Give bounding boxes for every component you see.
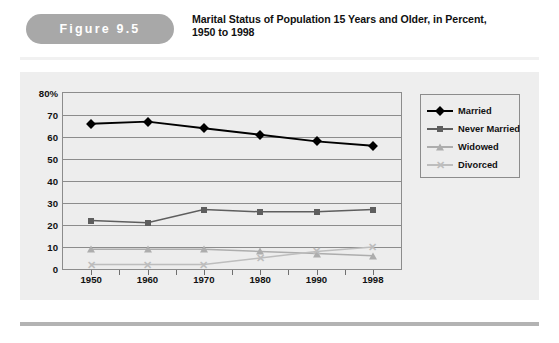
legend-label: Married bbox=[458, 106, 492, 116]
legend-marker-x-icon: ✕ bbox=[436, 161, 445, 170]
data-point: ✕ bbox=[143, 260, 152, 269]
figure-title-line-2: 1950 to 1998 bbox=[192, 26, 522, 39]
legend-label: Widowed bbox=[458, 142, 499, 152]
data-point bbox=[87, 246, 95, 253]
x-axis-tick-label: 1950 bbox=[80, 274, 101, 285]
header-divider bbox=[20, 57, 539, 60]
series-lines bbox=[63, 93, 401, 269]
legend-item[interactable]: ✕Divorced bbox=[427, 156, 519, 174]
y-axis-tick-label: 70 bbox=[24, 110, 58, 121]
y-axis-tick-label: 20 bbox=[24, 220, 58, 231]
y-axis-tick-label: 60 bbox=[24, 132, 58, 143]
chart-panel: 01020304050607080% ✕✕✕✕✕✕ 19501960197019… bbox=[20, 72, 539, 300]
data-point bbox=[370, 207, 376, 213]
figure-number-badge: Figure 9.5 bbox=[26, 14, 174, 44]
data-point bbox=[145, 220, 151, 226]
legend-item[interactable]: Married bbox=[427, 102, 519, 120]
data-point bbox=[369, 252, 377, 259]
y-axis-tick-label: 80% bbox=[24, 88, 58, 99]
x-axis-tick-label: 1970 bbox=[193, 274, 214, 285]
plot-area: ✕✕✕✕✕✕ bbox=[62, 92, 402, 270]
legend-marker-square-icon bbox=[437, 126, 443, 132]
y-axis-labels: 01020304050607080% bbox=[20, 92, 58, 270]
legend-marker-triangle-icon bbox=[436, 144, 444, 151]
y-axis-tick-label: 40 bbox=[24, 176, 58, 187]
data-point bbox=[200, 246, 208, 253]
data-point: ✕ bbox=[199, 260, 208, 269]
data-point: ✕ bbox=[87, 260, 96, 269]
y-axis-tick-label: 30 bbox=[24, 198, 58, 209]
figure-title-line-1: Marital Status of Population 15 Years an… bbox=[192, 13, 522, 26]
figure-header: Figure 9.5 Marital Status of Population … bbox=[0, 0, 559, 62]
legend-swatch bbox=[427, 124, 453, 134]
x-axis-tick-label: 1960 bbox=[137, 274, 158, 285]
footer-divider bbox=[20, 322, 539, 326]
chart-legend: MarriedNever MarriedWidowed✕Divorced bbox=[420, 94, 520, 178]
y-axis-tick-label: 10 bbox=[24, 242, 58, 253]
legend-marker-diamond-icon bbox=[435, 106, 445, 116]
x-axis-labels: 195019601970198019901998 bbox=[62, 274, 402, 292]
x-axis-tick-label: 1998 bbox=[362, 274, 383, 285]
x-axis-tick-label: 1990 bbox=[306, 274, 327, 285]
legend-item[interactable]: Widowed bbox=[427, 138, 519, 156]
legend-label: Divorced bbox=[458, 160, 498, 170]
y-axis-tick-label: 50 bbox=[24, 154, 58, 165]
legend-item[interactable]: Never Married bbox=[427, 120, 519, 138]
legend-swatch bbox=[427, 142, 453, 152]
data-point: ✕ bbox=[256, 254, 265, 263]
series-line bbox=[91, 122, 373, 146]
legend-label: Never Married bbox=[458, 124, 520, 134]
data-point bbox=[201, 207, 207, 213]
series-line bbox=[91, 210, 373, 223]
figure-title: Marital Status of Population 15 Years an… bbox=[192, 13, 522, 40]
data-point: ✕ bbox=[312, 247, 321, 256]
y-axis-tick-label: 0 bbox=[24, 264, 58, 275]
data-point: ✕ bbox=[368, 243, 377, 252]
data-point bbox=[314, 209, 320, 215]
legend-swatch bbox=[427, 106, 453, 116]
data-point bbox=[144, 246, 152, 253]
legend-swatch: ✕ bbox=[427, 160, 453, 170]
x-axis-tick-label: 1980 bbox=[249, 274, 270, 285]
data-point bbox=[88, 218, 94, 224]
data-point bbox=[257, 209, 263, 215]
